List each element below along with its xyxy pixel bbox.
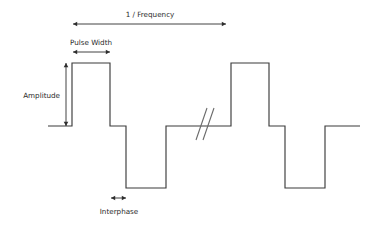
waveform-canvas: 1 / Frequency Pulse Width Amplitude Inte… (0, 0, 380, 227)
interphase-arrowhead-left (111, 196, 115, 201)
amplitude-dimension: Amplitude (23, 63, 68, 126)
interphase-label: Interphase (100, 207, 139, 216)
pulse-width-dimension: Pulse Width (70, 38, 112, 54)
frequency-dimension: 1 / Frequency (73, 10, 226, 26)
waveform-trace (48, 63, 360, 188)
pulse-width-label: Pulse Width (70, 38, 112, 47)
amplitude-arrowhead-bottom (64, 122, 69, 126)
pulse-width-arrowhead-right (106, 50, 110, 55)
frequency-label: 1 / Frequency (126, 10, 175, 19)
pulse-width-arrowhead-left (73, 50, 77, 55)
amplitude-arrowhead-top (64, 63, 69, 67)
frequency-arrowhead-left (73, 22, 77, 27)
frequency-arrowhead-right (222, 22, 226, 27)
amplitude-label: Amplitude (23, 91, 60, 100)
pulse-waveform-diagram: 1 / Frequency Pulse Width Amplitude Inte… (0, 0, 380, 227)
break-slash-first (196, 108, 207, 140)
interphase-arrowhead-right (122, 196, 126, 201)
axis-break-double-slash-icon (196, 108, 214, 140)
interphase-dimension: Interphase (100, 196, 139, 216)
break-slash-second (203, 108, 214, 140)
